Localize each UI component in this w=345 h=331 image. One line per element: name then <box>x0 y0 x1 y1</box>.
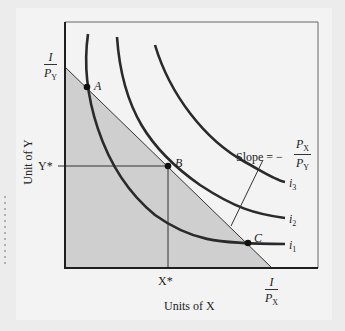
point-a-label: A <box>94 80 101 92</box>
x-intercept-numerator: I <box>265 276 278 290</box>
y-intercept-denominator: PY <box>44 65 57 82</box>
slope-annotation: Slope = − <box>236 151 283 163</box>
x-star-label: X* <box>158 275 173 287</box>
point-a <box>84 84 91 91</box>
slope-pointer <box>231 160 263 226</box>
slope-numerator: PX <box>294 138 311 155</box>
x-axis-label: Units of X <box>164 300 215 312</box>
point-c <box>245 240 252 247</box>
slope-fraction: PX PY <box>294 138 311 173</box>
x-intercept-denominator: PX <box>265 290 278 307</box>
y-intercept-label: I PY <box>44 51 57 82</box>
slope-denominator: PY <box>294 155 311 172</box>
y-intercept-numerator: I <box>44 51 57 65</box>
slope-prefix: Slope = − <box>236 150 283 164</box>
curve-i2-label: i2 <box>289 213 296 228</box>
point-c-label: C <box>254 232 262 244</box>
x-intercept-label: I PX <box>265 276 278 307</box>
curve-i3-label: i3 <box>289 177 296 192</box>
y-axis-label: Unit of Y <box>21 139 36 185</box>
y-star-label: Y* <box>38 160 53 172</box>
point-b <box>165 163 172 170</box>
curve-i1-label: i1 <box>289 239 296 254</box>
point-b-label: B <box>175 157 182 169</box>
